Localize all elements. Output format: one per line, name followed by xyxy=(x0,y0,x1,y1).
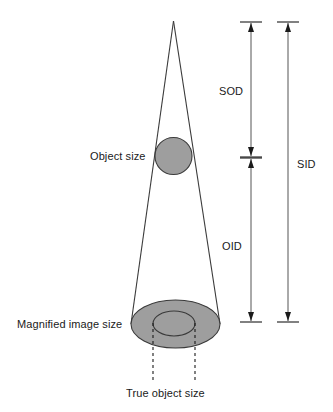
sid-measure xyxy=(277,22,299,322)
sod-measure xyxy=(240,22,262,157)
object-circle xyxy=(155,138,192,175)
magnified-image-size-label: Magnified image size xyxy=(17,318,122,330)
sid-arrowhead-top xyxy=(285,23,291,32)
magnified-image-ellipse xyxy=(131,300,220,348)
object-size-label: Object size xyxy=(90,150,146,162)
sod-label: SOD xyxy=(219,85,243,97)
diagram-canvas xyxy=(0,0,333,412)
magnification-diagram: Object size Magnified image size True ob… xyxy=(0,0,333,412)
sid-arrowhead-bottom xyxy=(285,312,291,321)
oid-measure xyxy=(240,158,262,322)
sid-label: SID xyxy=(297,158,316,170)
oid-arrowhead-bottom xyxy=(248,312,254,321)
sod-arrowhead-bottom xyxy=(248,147,254,156)
true-object-size-label: True object size xyxy=(126,387,205,399)
sod-arrowhead-top xyxy=(248,23,254,32)
oid-label: OID xyxy=(222,240,242,252)
oid-arrowhead-top xyxy=(248,159,254,168)
